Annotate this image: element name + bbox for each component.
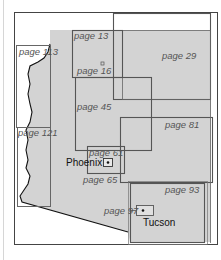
label-page-93[interactable]: page 93 [165, 185, 199, 195]
label-page-65[interactable]: page 65 [83, 175, 117, 185]
label-page-45[interactable]: page 45 [77, 102, 111, 112]
label-page-16[interactable]: page 16 [77, 66, 111, 76]
city-label-phoenix: Phoenix [66, 158, 102, 168]
phoenix-dot [107, 161, 110, 164]
label-page-81[interactable]: page 81 [165, 120, 199, 130]
tucson-dot [142, 209, 145, 212]
label-page-29[interactable]: page 29 [162, 51, 196, 61]
tucson-inset-box[interactable] [137, 206, 154, 216]
label-page-121[interactable]: page 121 [18, 128, 58, 138]
label-page-13[interactable]: page 13 [74, 31, 108, 41]
city-label-tucson: Tucson [143, 218, 175, 228]
label-page-113[interactable]: page 113 [19, 47, 58, 57]
label-page-97[interactable]: page 97 [104, 206, 138, 216]
